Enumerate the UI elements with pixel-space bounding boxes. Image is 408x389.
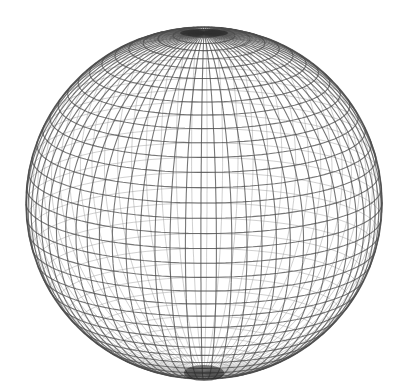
- wireframe-sphere: [0, 0, 408, 389]
- wireframe-sphere-figure: Wireframe sphere: [0, 0, 408, 389]
- south-pole-shade: [184, 365, 224, 381]
- north-pole-shade: [180, 29, 228, 37]
